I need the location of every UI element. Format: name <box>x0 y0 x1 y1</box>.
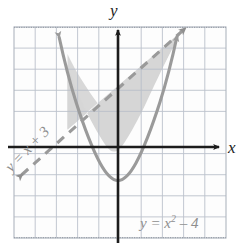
graph-figure <box>0 0 245 246</box>
parabola-equation-label: y = x2 – 4 <box>140 216 198 231</box>
parabola-equation-suffix: – 4 <box>176 215 199 231</box>
x-axis-label: x <box>228 139 236 156</box>
y-axis-label: y <box>110 2 118 19</box>
parabola-equation-prefix: y = x <box>140 215 171 231</box>
